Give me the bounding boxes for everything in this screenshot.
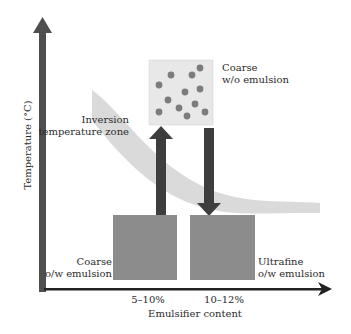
x-axis-line: [44, 288, 322, 291]
x-axis-label: Emulsifier content: [140, 308, 250, 320]
up-arrow-shaft: [156, 137, 166, 215]
bottom-right-label-line1: Ultrafine: [258, 256, 325, 268]
bottom-right-box: [190, 215, 255, 280]
zone-label-line1: Inversion: [39, 114, 129, 126]
bottom-left-label-line1: Coarse: [45, 256, 112, 268]
down-arrow-shaft: [204, 128, 214, 204]
top-box-label: Coarse w/o emulsion: [222, 62, 289, 86]
y-axis-line: [39, 30, 46, 292]
zone-label: Inversion temperature zone: [39, 114, 129, 138]
phase-inversion-diagram: Temperature (°C) Coarse w/o emulsion Inv…: [0, 0, 351, 334]
up-arrow-head-icon: [149, 126, 173, 139]
zone-label-line2: temperature zone: [39, 126, 129, 138]
x-tick-10-12: 10–12%: [202, 294, 246, 306]
diagram-graphics: [0, 0, 351, 334]
top-box-label-line2: w/o emulsion: [222, 74, 289, 86]
x-tick-5-10: 5–10%: [128, 294, 168, 306]
top-box-label-line1: Coarse: [222, 62, 289, 74]
bottom-right-label-line2: o/w emulsion: [258, 268, 325, 280]
y-axis-label: Temperature (°C): [22, 100, 33, 189]
bottom-right-box-label: Ultrafine o/w emulsion: [258, 256, 325, 280]
bottom-left-box: [113, 215, 177, 280]
bottom-left-label-line2: o/w emulsion: [45, 268, 112, 280]
bottom-left-box-label: Coarse o/w emulsion: [45, 256, 112, 280]
y-axis-arrowhead-icon: [33, 17, 52, 33]
